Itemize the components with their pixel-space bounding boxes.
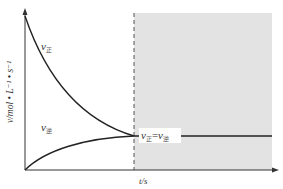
x-axis-label: t/s: [139, 176, 148, 186]
x-axis-arrow-icon: [272, 168, 279, 173]
y-axis-label: v/mol • L⁻¹ • s⁻¹: [5, 61, 15, 123]
v-forward-curve: [25, 16, 134, 136]
chart-canvas: v正 v逆 v正=v逆 v/mol • L⁻¹ • s⁻¹ t/s: [0, 0, 283, 189]
y-axis-arrow-icon: [23, 8, 28, 15]
v-reverse-curve: [25, 136, 134, 170]
v-reverse-label: v逆: [41, 121, 52, 135]
equilibrium-shaded-region: [134, 13, 272, 170]
v-forward-label: v正: [41, 40, 52, 53]
